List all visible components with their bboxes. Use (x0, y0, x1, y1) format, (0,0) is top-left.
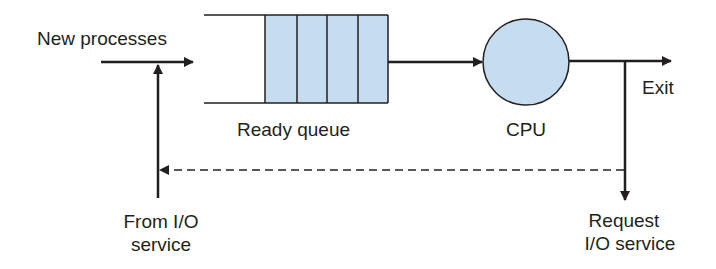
request-io-label-line1: Request (589, 210, 660, 231)
request-io-label-line2: I/O service (585, 233, 676, 254)
process-queue-diagram: New processes Ready queue CPU Exit From … (0, 0, 716, 269)
cpu-node (483, 19, 569, 105)
from-io-label-line1: From I/O (124, 211, 199, 232)
new-processes-label: New processes (37, 28, 167, 49)
cpu-label: CPU (506, 119, 546, 140)
ready-queue (204, 15, 388, 103)
exit-label: Exit (642, 77, 674, 98)
from-io-label-line2: service (131, 234, 191, 255)
ready-queue-label: Ready queue (237, 119, 350, 140)
